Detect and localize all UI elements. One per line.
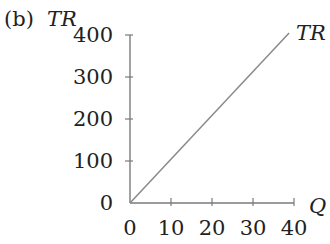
y-tick-label: 100 <box>73 149 113 173</box>
x-ticks: 010203040 <box>123 198 307 240</box>
x-tick-label: 20 <box>199 216 226 240</box>
x-tick-label: 0 <box>123 216 136 240</box>
y-tick-label: 300 <box>73 65 113 89</box>
x-axis-label: Q <box>309 194 326 218</box>
x-tick-label: 30 <box>240 216 267 240</box>
y-ticks: 0100200300400 <box>73 23 133 215</box>
y-tick-label: 400 <box>73 23 113 47</box>
x-tick-label: 40 <box>281 216 308 240</box>
x-tick-label: 10 <box>158 216 185 240</box>
tr-chart: (b) TR 0100200300400 010203040 TR Q <box>0 0 330 244</box>
y-tick-label: 0 <box>100 191 113 215</box>
series-label-tr: TR <box>296 21 326 45</box>
panel-label: (b) <box>4 7 34 31</box>
y-tick-label: 200 <box>73 107 113 131</box>
tr-line <box>130 33 289 203</box>
